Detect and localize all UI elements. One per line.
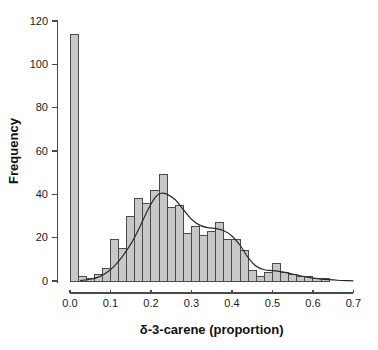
histogram-bar xyxy=(135,199,143,281)
y-tick-label: 40 xyxy=(36,188,48,200)
x-tick-label: 0.5 xyxy=(265,297,280,309)
histogram-bar xyxy=(70,34,78,281)
x-axis-title: δ-3-carene (proportion) xyxy=(140,322,284,337)
histogram-bar xyxy=(159,175,167,281)
x-tick-label: 0.1 xyxy=(103,297,118,309)
histogram-bar xyxy=(119,249,127,282)
y-axis-title: Frequency xyxy=(6,117,21,184)
histogram-bar xyxy=(191,227,199,281)
histogram-bar xyxy=(208,231,216,281)
histogram-bar xyxy=(151,190,159,281)
y-tick-label: 80 xyxy=(36,101,48,113)
histogram-bar xyxy=(272,264,280,281)
histogram-bar xyxy=(200,236,208,282)
x-tick-label: 0.2 xyxy=(143,297,158,309)
histogram-bar xyxy=(183,233,191,281)
histogram-bar xyxy=(281,272,289,281)
y-tick-label: 120 xyxy=(30,15,48,27)
histogram-bar xyxy=(175,205,183,281)
histogram-figure: 0204060801001200.00.10.20.30.40.50.60.7 … xyxy=(0,0,378,350)
x-tick-label: 0.0 xyxy=(62,297,77,309)
histogram-bar xyxy=(297,277,305,281)
histogram-bar xyxy=(224,240,232,281)
x-tick-label: 0.3 xyxy=(184,297,199,309)
histogram-plot: 0204060801001200.00.10.20.30.40.50.60.7 … xyxy=(0,0,378,350)
y-tick-label: 0 xyxy=(42,275,48,287)
y-tick-label: 60 xyxy=(36,145,48,157)
histogram-bar xyxy=(216,223,224,282)
y-tick-label: 20 xyxy=(36,231,48,243)
bars-group xyxy=(70,34,329,281)
x-tick-label: 0.7 xyxy=(346,297,361,309)
histogram-bar xyxy=(110,240,118,281)
histogram-bar xyxy=(264,272,272,281)
x-tick-label: 0.6 xyxy=(305,297,320,309)
histogram-bar xyxy=(143,203,151,281)
histogram-bar xyxy=(248,270,256,281)
y-tick-label: 100 xyxy=(30,58,48,70)
x-tick-label: 0.4 xyxy=(224,297,239,309)
histogram-bar xyxy=(256,277,264,281)
histogram-bar xyxy=(167,207,175,281)
histogram-bar xyxy=(289,275,297,282)
histogram-bar xyxy=(232,240,240,281)
